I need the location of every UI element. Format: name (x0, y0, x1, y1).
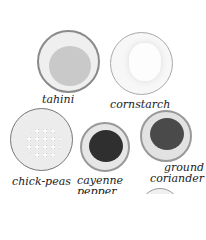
chick-peas-fill (25, 127, 61, 159)
cayenne-pepper-fill (89, 130, 123, 162)
cayenne-pepper-label-line2: pepper (77, 186, 123, 194)
ground-coriander-bowl (140, 110, 192, 162)
tahini-bowl (37, 30, 100, 93)
cornstarch-fill (129, 43, 161, 81)
ground-coriander-label: ground coriander (150, 162, 204, 184)
cornstarch-label: cornstarch (110, 99, 170, 110)
cornstarch-bowl (110, 32, 173, 95)
chick-peas-label: chick-peas (12, 176, 71, 187)
ground-coriander-label-line2: coriander (150, 173, 204, 184)
cayenne-pepper-bowl (80, 122, 130, 172)
tahini-label: tahini (42, 94, 74, 105)
ground-coriander-fill (150, 118, 184, 150)
tahini-fill (49, 46, 91, 86)
chick-peas-bowl (10, 108, 73, 171)
cayenne-pepper-label: cayenne pepper (77, 175, 123, 194)
partial-bowl (140, 188, 180, 194)
